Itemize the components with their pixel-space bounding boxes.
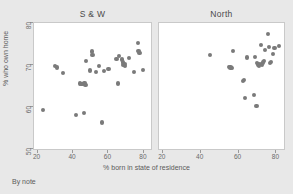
data-point xyxy=(90,53,94,57)
data-point xyxy=(137,51,141,55)
data-point xyxy=(243,96,247,100)
data-point xyxy=(100,120,104,124)
data-point xyxy=(127,56,131,60)
data-point xyxy=(254,104,258,108)
data-point xyxy=(41,108,45,112)
x-tick-label: 40 xyxy=(68,153,75,160)
data-point xyxy=(55,65,59,69)
data-point xyxy=(253,55,257,59)
data-point xyxy=(272,46,276,50)
data-point xyxy=(277,44,281,48)
data-point xyxy=(252,93,256,97)
plot-panel-north xyxy=(158,22,285,150)
panel-title-north: North xyxy=(158,8,285,21)
plot-area-north xyxy=(159,23,284,149)
y-tick-label: 70 xyxy=(25,64,32,71)
data-point xyxy=(259,43,263,47)
plot-panel-sw xyxy=(33,22,152,150)
data-point xyxy=(123,64,127,68)
data-point xyxy=(230,66,234,70)
x-tick-label: 40 xyxy=(196,153,203,160)
x-tick-label: 20 xyxy=(33,153,40,160)
y-axis-label: % who own home xyxy=(2,31,9,86)
data-point xyxy=(106,67,110,71)
x-axis-north: 20406080 xyxy=(158,150,285,164)
y-tick-label: 50 xyxy=(25,148,32,155)
data-point xyxy=(271,52,275,56)
data-point xyxy=(269,60,273,64)
data-point xyxy=(97,64,101,68)
x-tick-label: 80 xyxy=(272,153,279,160)
y-tick-label: 80 xyxy=(25,22,32,29)
x-tick-label: 20 xyxy=(158,153,165,160)
data-point xyxy=(262,59,266,63)
x-tick-label: 60 xyxy=(234,153,241,160)
data-point xyxy=(82,111,86,115)
x-axis-sw: 20406080 xyxy=(33,150,152,164)
scatter-figure: S & W North % who own home 50607080 2040… xyxy=(0,0,293,194)
figure-note: By note xyxy=(12,178,36,185)
data-point xyxy=(231,49,235,53)
panel-title-sw: S & W xyxy=(33,8,152,21)
y-tick-label: 60 xyxy=(25,106,32,113)
data-point xyxy=(136,41,140,45)
data-point xyxy=(266,32,270,36)
data-point xyxy=(267,45,271,49)
data-point xyxy=(116,81,120,85)
data-point xyxy=(94,70,98,74)
data-point xyxy=(242,78,246,82)
x-tick-label: 80 xyxy=(139,153,146,160)
data-point xyxy=(141,68,145,72)
data-point xyxy=(74,113,78,117)
data-point xyxy=(208,53,212,57)
data-point xyxy=(83,83,87,87)
plot-area-sw xyxy=(34,23,151,149)
data-point xyxy=(245,55,249,59)
x-axis-label: % born in state of residence xyxy=(0,164,293,171)
data-point xyxy=(132,70,136,74)
data-point xyxy=(61,71,65,75)
data-point xyxy=(263,48,267,52)
x-tick-label: 60 xyxy=(104,153,111,160)
data-point xyxy=(88,68,92,72)
data-point xyxy=(84,59,88,63)
